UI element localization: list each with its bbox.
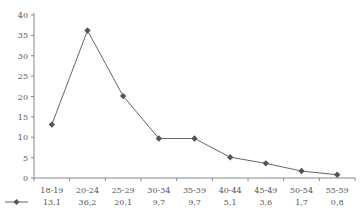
data-value-label: 9,7 xyxy=(152,198,165,207)
data-value-label: 3,6 xyxy=(259,198,272,207)
y-tick-label: 0 xyxy=(23,174,28,183)
data-value-label: 1,7 xyxy=(295,198,308,207)
series-group xyxy=(49,27,341,178)
x-category-label: 20-24 xyxy=(76,186,99,195)
data-point-marker xyxy=(334,172,340,178)
y-axis-ticks: 0510152025303540 xyxy=(18,11,34,183)
data-value-label: 9,7 xyxy=(188,198,201,207)
y-tick-label: 35 xyxy=(18,31,28,40)
data-value-label: 0,8 xyxy=(331,198,344,207)
x-category-label: 50-54 xyxy=(290,186,313,195)
y-tick-label: 20 xyxy=(18,93,28,102)
line-chart: 0510152025303540 18-1920-2425-2930-3435-… xyxy=(0,0,360,222)
x-category-label: 30-34 xyxy=(147,186,170,195)
data-table: 13,136,220,19,79,75,13,61,70,8 xyxy=(5,198,344,207)
data-value-label: 5,1 xyxy=(224,198,237,207)
data-point-marker xyxy=(227,154,233,160)
data-point-marker xyxy=(191,135,197,141)
y-tick-label: 25 xyxy=(18,72,28,81)
y-tick-label: 15 xyxy=(18,113,28,122)
x-category-label: 55-59 xyxy=(326,186,349,195)
y-tick-label: 5 xyxy=(23,154,28,163)
series-line xyxy=(52,30,337,174)
x-category-label: 45-49 xyxy=(254,186,277,195)
data-point-marker xyxy=(298,168,304,174)
data-value-label: 13,1 xyxy=(43,198,61,207)
y-tick-label: 10 xyxy=(18,133,28,142)
data-point-marker xyxy=(263,160,269,166)
data-value-label: 36,2 xyxy=(79,198,97,207)
axes xyxy=(34,13,355,178)
data-point-marker xyxy=(84,27,90,33)
x-category-label: 35-39 xyxy=(183,186,206,195)
x-category-label: 25-29 xyxy=(112,186,135,195)
y-tick-label: 40 xyxy=(18,11,28,20)
legend-marker-icon xyxy=(14,199,20,205)
data-value-label: 20,1 xyxy=(114,198,132,207)
data-point-marker xyxy=(49,121,55,127)
x-axis-ticks: 18-1920-2425-2930-3435-3940-4445-4950-54… xyxy=(34,178,355,195)
x-category-label: 40-44 xyxy=(219,186,242,195)
x-category-label: 18-19 xyxy=(40,186,63,195)
y-tick-label: 30 xyxy=(18,52,28,61)
